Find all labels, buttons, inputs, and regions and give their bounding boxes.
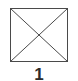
figure-container: 1 — [0, 0, 78, 81]
figure-number-label: 1 — [0, 66, 78, 81]
